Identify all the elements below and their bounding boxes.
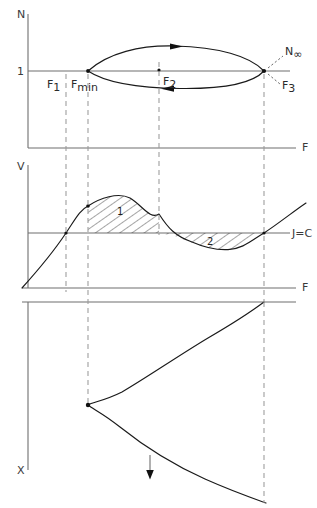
panel-n: N 1 F F1 Fmin F2 N∞ F3 <box>17 8 308 154</box>
f3-point <box>262 69 266 73</box>
region-2-label: 2 <box>207 236 213 247</box>
label-n-infinity: N∞ <box>285 45 302 61</box>
panel-v-x-axis-label: F <box>302 281 308 294</box>
three-panel-figure: N 1 F F1 Fmin F2 N∞ F3 V <box>0 0 317 508</box>
region-1-label: 1 <box>117 206 123 217</box>
label-f2-subscript: 2 <box>169 78 176 91</box>
label-f1: F1 <box>47 78 60 94</box>
label-j-equals-c: J=C <box>291 227 312 240</box>
panel-v-y-axis-label: V <box>17 160 25 173</box>
x-direction-arrow-icon <box>146 470 154 480</box>
label-n-infinity-base: N <box>285 45 293 58</box>
x-nose-curve-lower <box>88 405 266 503</box>
label-fmin: Fmin <box>71 78 98 94</box>
x-turning-point <box>86 403 90 407</box>
x-nose-curve-upper <box>88 302 264 405</box>
v-potential-curve <box>22 196 306 288</box>
n-upper-flow-arrow-icon <box>170 44 183 50</box>
label-f1-subscript: 1 <box>53 81 60 94</box>
panel-n-tick-label-one: 1 <box>17 65 24 78</box>
f3-leader-line <box>268 74 280 84</box>
label-n-infinity-subscript: ∞ <box>293 48 302 61</box>
vertical-marker-lines <box>66 62 264 503</box>
n-upper-branch-curve <box>88 46 264 71</box>
ninf-leader-line <box>268 56 283 68</box>
panel-x-y-axis-label: X <box>17 464 25 477</box>
panel-x: X <box>17 302 296 503</box>
panel-n-x-axis-label: F <box>302 141 308 154</box>
label-f3: F3 <box>282 79 295 95</box>
panel-v: V F J=C 1 2 <box>17 160 312 294</box>
label-f3-subscript: 3 <box>288 82 295 95</box>
panel-n-y-axis-label: N <box>17 8 25 21</box>
fmin-point <box>86 69 90 73</box>
figure-root: N 1 F F1 Fmin F2 N∞ F3 V <box>0 0 317 508</box>
